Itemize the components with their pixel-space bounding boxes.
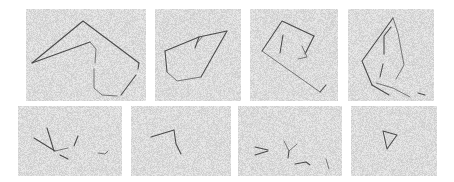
- stroke-path: [174, 130, 181, 154]
- stroke-path: [32, 42, 90, 63]
- panel-strokes: [131, 106, 231, 176]
- stroke-path: [74, 136, 78, 146]
- stroke-path: [383, 131, 397, 149]
- stroke-path: [165, 51, 167, 72]
- panel-strokes: [155, 9, 241, 101]
- sketch-panel: [250, 9, 338, 101]
- stroke-path: [94, 69, 117, 96]
- stroke-path: [255, 151, 268, 155]
- stroke-path: [280, 35, 283, 53]
- stroke-path: [284, 141, 297, 151]
- stroke-path: [201, 31, 227, 77]
- sketch-panel: [348, 9, 434, 101]
- sketch-panel: [131, 106, 231, 176]
- panel-strokes: [18, 106, 122, 176]
- stroke-path: [380, 64, 383, 77]
- sketch-panel: [238, 106, 342, 176]
- stroke-path: [384, 27, 391, 54]
- stroke-path: [305, 36, 314, 54]
- panel-strokes: [351, 106, 437, 176]
- stroke-path: [47, 128, 54, 151]
- stroke-path: [121, 75, 136, 95]
- stroke-path: [418, 93, 425, 95]
- stroke-path: [90, 42, 96, 63]
- sketch-panel: [155, 9, 241, 101]
- sketch-panel: [18, 106, 122, 176]
- stroke-path: [288, 151, 289, 158]
- panel-strokes: [348, 9, 434, 101]
- stroke-path: [98, 151, 108, 154]
- sketch-panel-figure: [0, 0, 454, 182]
- panel-strokes: [26, 9, 146, 101]
- sketch-panel: [351, 106, 437, 176]
- stroke-path: [326, 159, 329, 169]
- panel-strokes: [250, 9, 338, 101]
- stroke-path: [60, 155, 68, 159]
- stroke-path: [55, 148, 68, 151]
- stroke-path: [262, 51, 320, 92]
- stroke-path: [255, 147, 268, 150]
- stroke-path: [295, 162, 310, 165]
- stroke-path: [320, 85, 326, 92]
- stroke-path: [151, 130, 174, 137]
- stroke-path: [138, 63, 139, 69]
- stroke-path: [362, 18, 393, 85]
- stroke-path: [167, 72, 201, 81]
- sketch-panel: [26, 9, 146, 101]
- stroke-path: [262, 21, 314, 51]
- panel-strokes: [238, 106, 342, 176]
- stroke-path: [393, 18, 404, 79]
